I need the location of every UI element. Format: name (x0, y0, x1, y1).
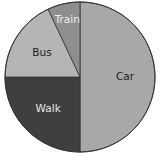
slice-label-train: Train (54, 13, 80, 25)
slice-label-walk: Walk (36, 102, 62, 114)
slice-label-car: Car (116, 70, 135, 82)
pie-chart: CarWalkBusTrain (0, 0, 160, 159)
slice-label-bus: Bus (32, 46, 51, 58)
pie-slice-walk (5, 77, 80, 152)
